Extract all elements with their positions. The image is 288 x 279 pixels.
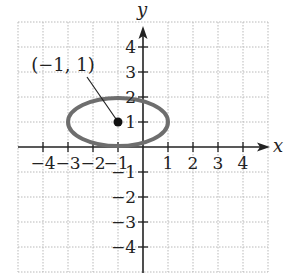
x-tick-label: 3 <box>213 153 224 173</box>
y-tick-label: −2 <box>111 187 136 207</box>
x-tick-labels: −4 −3 −2 −1 1 2 3 4 <box>30 153 248 173</box>
x-tick-label: 2 <box>188 153 199 173</box>
y-tick-label: −1 <box>111 162 136 182</box>
y-tick-label: −4 <box>111 237 136 257</box>
x-tick-label: −2 <box>80 153 105 173</box>
y-axis-label: y <box>136 0 148 20</box>
point-annotation: (−1, 1) <box>31 54 94 75</box>
y-tick-label: 4 <box>125 37 136 57</box>
x-tick-label: 1 <box>163 153 174 173</box>
y-axis <box>139 26 148 273</box>
center-point <box>114 118 123 127</box>
coordinate-plane: −4 −3 −2 −1 1 2 3 4 4 3 2 1 −1 −2 −3 −4 … <box>0 0 288 279</box>
x-tick-label: −3 <box>55 153 80 173</box>
y-tick-label: 1 <box>125 112 136 132</box>
y-tick-label: 3 <box>125 62 136 82</box>
x-axis-label: x <box>273 135 283 156</box>
y-tick-label: 2 <box>125 87 136 107</box>
x-tick-label: −4 <box>30 153 55 173</box>
y-tick-label: −3 <box>111 212 136 232</box>
x-tick-label: 4 <box>238 153 249 173</box>
